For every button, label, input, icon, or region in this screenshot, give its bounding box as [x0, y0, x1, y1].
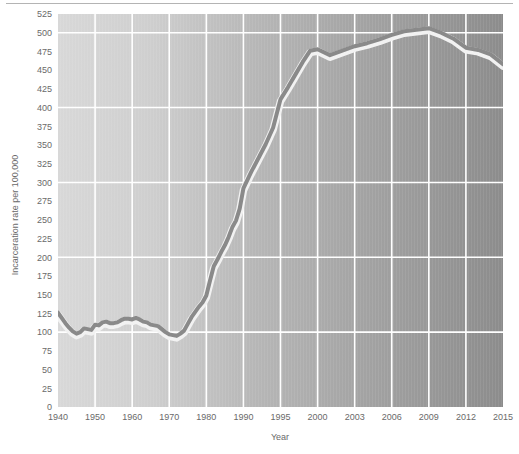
x-tick-label: 2015	[493, 412, 513, 422]
x-tick-label: 2006	[382, 412, 402, 422]
x-tick-label: 2009	[419, 412, 439, 422]
y-tick-label: 25	[42, 384, 52, 394]
y-tick-label: 100	[37, 327, 52, 337]
y-tick-label: 400	[37, 103, 52, 113]
y-tick-label: 375	[37, 122, 52, 132]
y-tick-label: 250	[37, 215, 52, 225]
x-tick-label: 1990	[233, 412, 253, 422]
x-axis-tick-labels: 1940195019601970198019901995200020032006…	[48, 412, 513, 422]
y-axis-title: Incarceration rate per 100,000	[10, 155, 20, 276]
y-tick-label: 300	[37, 178, 52, 188]
y-tick-label: 0	[47, 402, 52, 412]
y-tick-label: 225	[37, 234, 52, 244]
x-tick-label: 2000	[308, 412, 328, 422]
x-axis-title: Year	[271, 432, 289, 442]
x-tick-label: 1950	[85, 412, 105, 422]
x-tick-label: 1940	[48, 412, 68, 422]
y-tick-label: 425	[37, 84, 52, 94]
y-tick-label: 50	[42, 365, 52, 375]
y-tick-label: 350	[37, 140, 52, 150]
y-tick-label: 275	[37, 196, 52, 206]
y-tick-label: 125	[37, 309, 52, 319]
chart-figure: 0255075100125150175200225250275300325350…	[0, 0, 519, 454]
y-tick-label: 175	[37, 271, 52, 281]
y-tick-label: 150	[37, 290, 52, 300]
x-tick-label: 2003	[345, 412, 365, 422]
y-tick-label: 475	[37, 47, 52, 57]
y-axis-tick-labels: 0255075100125150175200225250275300325350…	[37, 9, 52, 412]
y-tick-label: 75	[42, 346, 52, 356]
x-tick-label: 1995	[270, 412, 290, 422]
x-tick-label: 1970	[159, 412, 179, 422]
y-tick-label: 325	[37, 159, 52, 169]
y-tick-label: 500	[37, 28, 52, 38]
y-tick-label: 525	[37, 9, 52, 19]
y-tick-label: 200	[37, 253, 52, 263]
x-tick-label: 1980	[196, 412, 216, 422]
y-tick-label: 450	[37, 65, 52, 75]
x-tick-label: 2012	[456, 412, 476, 422]
x-tick-label: 1960	[122, 412, 142, 422]
incarceration-rate-line-chart: 0255075100125150175200225250275300325350…	[0, 0, 519, 454]
